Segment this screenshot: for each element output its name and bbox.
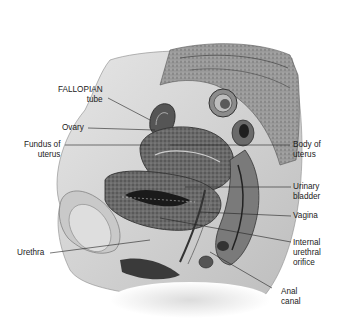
label-line: Urethra [17, 248, 44, 258]
label-fallopian-tube: FALLOPIAN tube [58, 85, 103, 105]
label-line: urethral [293, 248, 321, 258]
label-fundus-of-uterus: Fundus of uterus [24, 140, 60, 160]
label-internal-urethral-orifice: Internal urethral orifice [293, 238, 321, 268]
label-line: Fundus of [24, 140, 60, 150]
label-body-of-uterus: Body of uterus [293, 140, 321, 160]
label-ovary: Ovary [62, 123, 84, 133]
label-line: uterus [293, 150, 321, 160]
pelvis-illustration [0, 0, 342, 325]
label-line: Internal [293, 238, 321, 248]
label-line: uterus [24, 150, 60, 160]
label-line: Body of [293, 140, 321, 150]
anatomy-diagram: FALLOPIAN tube Ovary Fundus of uterus Ur… [0, 0, 342, 325]
label-line: bladder [293, 192, 320, 202]
label-line: Ovary [62, 123, 84, 133]
label-line: orifice [293, 258, 321, 268]
label-line: Urinary [293, 182, 320, 192]
label-line: FALLOPIAN [58, 85, 103, 95]
label-anal-canal: Anal canal [281, 287, 301, 307]
label-line: Anal [281, 287, 301, 297]
label-line: canal [281, 297, 301, 307]
label-line: tube [58, 95, 103, 105]
label-line: Vagina [293, 211, 318, 221]
label-urinary-bladder: Urinary bladder [293, 182, 320, 202]
label-urethra: Urethra [17, 248, 44, 258]
label-vagina: Vagina [293, 211, 318, 221]
